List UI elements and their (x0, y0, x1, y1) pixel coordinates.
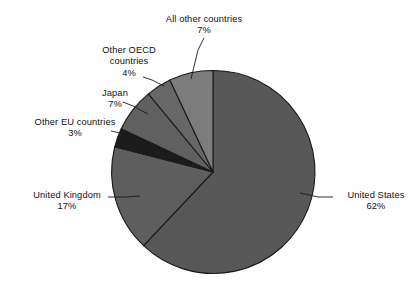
pie-label-japan-name: Japan (84, 88, 146, 99)
pie-label-united-states-name: United States (337, 190, 415, 201)
pie-label-japan-percent: 7% (84, 99, 146, 110)
pie-label-other-eu-countries-percent: 3% (14, 128, 136, 139)
pie-label-all-other-countries-percent: 7% (148, 25, 260, 36)
pie-label-united-kingdom-name: United Kingdom (18, 190, 116, 201)
pie-chart-svg (0, 0, 420, 302)
pie-label-united-kingdom: United Kingdom 17% (18, 190, 116, 213)
pie-label-all-other-countries-name: All other countries (148, 14, 260, 25)
pie-label-other-oecd-countries-name2: countries (90, 56, 168, 67)
pie-chart: All other countries 7% Other OECD countr… (0, 0, 420, 302)
pie-label-other-oecd-countries-percent: 4% (90, 68, 168, 79)
pie-label-united-states: United States 62% (337, 190, 415, 213)
pie-label-japan: Japan 7% (84, 88, 146, 111)
pie-label-united-states-percent: 62% (337, 201, 415, 212)
pie-label-united-kingdom-percent: 17% (18, 201, 116, 212)
pie-label-all-other-countries: All other countries 7% (148, 14, 260, 37)
pie-label-other-eu-countries-name: Other EU countries (14, 117, 136, 128)
pie-label-other-eu-countries: Other EU countries 3% (14, 117, 136, 140)
pie-label-other-oecd-countries-name: Other OECD (90, 45, 168, 56)
pie-label-other-oecd-countries: Other OECD countries 4% (90, 45, 168, 79)
